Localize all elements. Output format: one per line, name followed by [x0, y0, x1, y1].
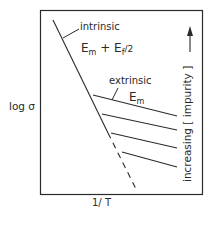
- extrinsic-line-2: [102, 114, 177, 130]
- arrow-up-icon: [187, 26, 193, 36]
- x-axis-label: 1/ T: [92, 198, 111, 208]
- y-axis-label: log σ: [9, 101, 35, 112]
- energy-fraction: /2: [124, 44, 133, 54]
- extrinsic-activation-energy: Em: [129, 91, 144, 106]
- energy-subscript-m: m: [137, 97, 145, 106]
- extrinsic-label: extrinsic: [109, 76, 152, 86]
- intrinsic-activation-energy: Em + Ef/2: [81, 42, 133, 57]
- energy-plus-term: + E: [96, 41, 121, 55]
- extrinsic-line-3: [111, 133, 177, 148]
- extrinsic-leader-line: [112, 88, 118, 100]
- intrinsic-extrapolation-dashed: [108, 133, 137, 191]
- energy-symbol: E: [129, 90, 137, 104]
- impurity-label: increasing [ impurity ]: [182, 66, 193, 182]
- extrinsic-line-4: [122, 152, 177, 167]
- intrinsic-leader-line: [63, 29, 79, 38]
- intrinsic-label: intrinsic: [80, 22, 120, 32]
- intrinsic-line: [53, 20, 108, 133]
- energy-symbol: E: [81, 41, 89, 55]
